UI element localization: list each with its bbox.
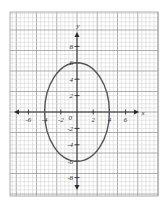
y-tick-label: 8: [70, 43, 74, 51]
y-tick-label: -8: [67, 174, 73, 182]
graph-paper-chart: -6-4-22468642-2-4-6-80xy: [0, 0, 165, 202]
x-tick-label: 6: [124, 116, 128, 124]
y-tick-label: -6: [67, 158, 73, 166]
origin-label: 0: [69, 114, 73, 122]
y-tick-label: -2: [67, 125, 73, 133]
y-tick-label: -4: [67, 141, 73, 149]
y-tick-label: 4: [70, 76, 74, 84]
y-tick-label: 6: [70, 59, 74, 67]
x-tick-label: 2: [91, 116, 95, 124]
x-tick-label: 4: [108, 116, 112, 124]
x-tick-label: -6: [25, 116, 31, 124]
y-tick-label: 2: [70, 92, 74, 100]
x-tick-label: -2: [58, 116, 64, 124]
x-tick-label: -4: [42, 116, 48, 124]
